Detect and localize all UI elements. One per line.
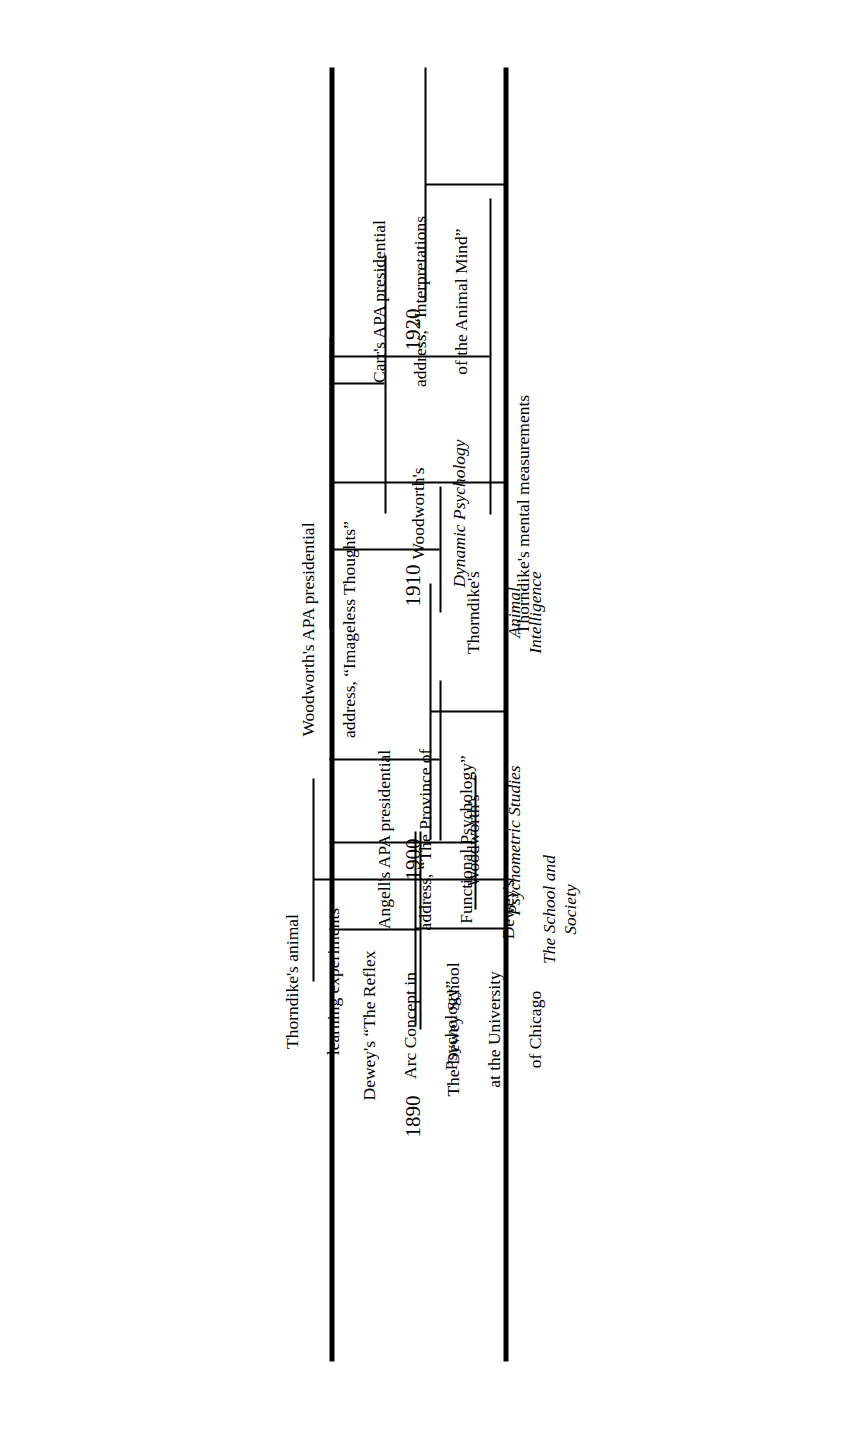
event-caption: Woodworth's Psychometric Studies	[441, 760, 544, 920]
caption-line: Thorndike's animal	[281, 880, 302, 1083]
caption-line-italic: Dynamic Psychology	[448, 384, 469, 642]
caption-line: address, “Interpretations	[409, 184, 430, 418]
caption-line: The Dewey School	[442, 930, 463, 1128]
event-stem	[329, 758, 439, 760]
event-caption: Woodworth's Dynamic Psychology	[386, 384, 489, 642]
caption-line: Thorndike's mental measurements	[512, 356, 533, 672]
event-stem	[329, 928, 419, 930]
caption-line: learning experiments	[322, 880, 343, 1083]
caption-line: of the Animal Mind”	[450, 184, 471, 418]
caption-line: Woodworth's	[407, 384, 428, 642]
event-stem	[329, 382, 384, 384]
timeline-canvas: 1890 1900 1910 1920 Dewey's “The Reflex …	[0, 0, 851, 1429]
caption-line-italic: Psychometric Studies	[503, 760, 524, 920]
caption-line: Woodworth's	[462, 760, 483, 920]
caption-line: Woodworth's APA presidential	[297, 483, 318, 775]
event-caption: Thorndike's mental measurements	[491, 356, 553, 672]
event-stem	[329, 355, 489, 357]
timeline-figure: 1890 1900 1910 1920 Dewey's “The Reflex …	[0, 0, 851, 1429]
upper-timeline-axis	[503, 67, 508, 1361]
caption-line: address, “Imageless Thoughts”	[338, 483, 359, 775]
